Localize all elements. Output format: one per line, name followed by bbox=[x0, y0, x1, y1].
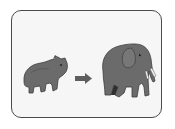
illustration-card bbox=[11, 10, 162, 118]
young-animal-icon bbox=[24, 55, 67, 93]
elephant-icon bbox=[103, 44, 156, 97]
right-arrow-icon bbox=[75, 73, 92, 84]
